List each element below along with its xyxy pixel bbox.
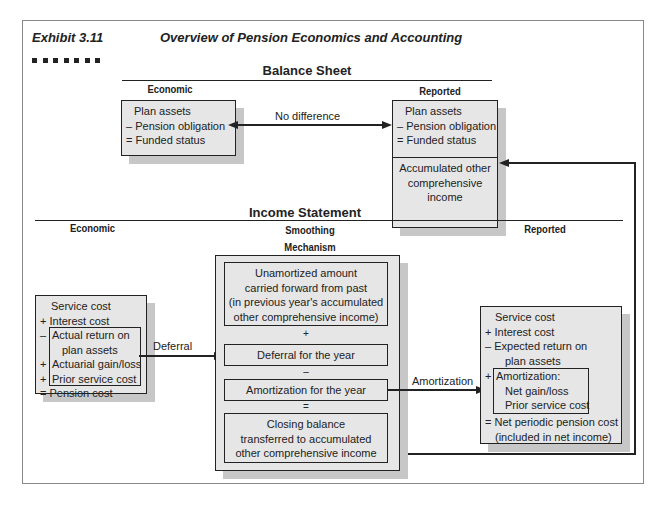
bs-rep-line: = Funded status: [397, 133, 493, 148]
econ-inner-line: plan assets: [52, 343, 140, 358]
bs-economic-label: Economic: [125, 83, 215, 95]
no-difference-label: No difference: [275, 110, 340, 122]
decorative-dots: [32, 49, 112, 55]
smoothing-line: Mechanism: [274, 239, 346, 256]
arrow-left-icon: [228, 121, 238, 129]
bs-econ-line: – Pension obligation: [126, 119, 231, 134]
is-reported-label: Reported: [509, 223, 581, 235]
closing-line: Closing balance: [225, 417, 387, 432]
arrow-left-icon: [499, 159, 509, 167]
econ-line: + Interest cost: [40, 314, 146, 329]
income-statement-rule: [35, 220, 623, 221]
econ-inner-signs: – + +: [40, 328, 48, 386]
income-statement-heading: Income Statement: [220, 205, 390, 220]
is-economic-label: Economic: [54, 222, 131, 234]
econ-inner-line: Prior service cost: [52, 372, 140, 387]
bs-economic-box: Plan assets – Pension obligation = Funde…: [121, 100, 236, 156]
amortization-arrow-line: [388, 389, 476, 391]
bs-reported-label: Reported: [395, 85, 485, 97]
no-difference-arrow-line: [236, 124, 383, 126]
closing-line: transferred to accumulated: [225, 432, 387, 447]
rep-line: Service cost: [485, 310, 621, 325]
rep-bottom-line: (included in net income): [485, 430, 618, 445]
rep-line: + Interest cost: [485, 325, 621, 340]
aoci-arrow-top: [508, 162, 635, 164]
smoothing-mechanism-label: Smoothing Mechanism: [274, 222, 346, 256]
is-economic-box: Service cost + Interest cost – + + Actua…: [35, 295, 147, 394]
aoci-arrow-bottom: [399, 453, 636, 455]
bs-rep-line: Plan assets: [397, 104, 493, 119]
sign: +: [485, 369, 491, 384]
rep-bottom-line: = Net periodic pension cost: [485, 415, 618, 430]
balance-sheet-heading: Balance Sheet: [122, 63, 492, 78]
is-reported-box: Service cost + Interest cost – Expected …: [480, 306, 622, 444]
minus-operator: –: [224, 366, 388, 377]
smoothing-line: Smoothing: [274, 222, 346, 239]
bs-econ-line: = Funded status: [126, 133, 231, 148]
pension-cost-line: = Pension cost: [40, 386, 112, 401]
sign: +: [40, 357, 48, 372]
rep-inner-line: Prior service cost: [496, 398, 588, 413]
net-periodic-section: = Net periodic pension cost (included in…: [485, 415, 618, 444]
econ-inner-line: Actual return on: [52, 328, 140, 343]
closing-line: other comprehensive income: [225, 446, 387, 461]
unamortized-line: carried forward from past: [225, 281, 387, 296]
aoci-section: Accumulated other comprehensive income: [393, 158, 497, 205]
plus-operator: +: [224, 328, 388, 339]
exhibit-title: Overview of Pension Economics and Accoun…: [160, 30, 462, 45]
aoci-line: comprehensive: [393, 176, 497, 191]
rep-inner-line: Amortization:: [496, 369, 588, 384]
econ-inner-box: Actual return on plan assets Actuarial g…: [49, 327, 141, 386]
amortization-year-box: Amortization for the year: [224, 379, 388, 401]
econ-line: Service cost: [40, 299, 146, 314]
bs-reported-box: Plan assets – Pension obligation = Funde…: [392, 100, 498, 228]
sign: –: [40, 328, 48, 343]
balance-sheet-rule: [122, 80, 492, 81]
aoci-line: income: [393, 190, 497, 205]
unamortized-line: other comprehensive income): [225, 310, 387, 325]
bs-econ-line: Plan assets: [126, 104, 231, 119]
unamortized-box: Unamortized amount carried forward from …: [224, 262, 388, 326]
sign: +: [40, 372, 48, 387]
exhibit-number: Exhibit 3.11: [32, 30, 103, 45]
aoci-arrow-vertical: [634, 162, 636, 454]
deferral-year-box: Deferral for the year: [224, 344, 388, 366]
arrow-right-icon: [382, 121, 392, 129]
unamortized-line: Unamortized amount: [225, 266, 387, 281]
rep-amortization-box: Amortization: Net gain/loss Prior servic…: [493, 368, 589, 414]
aoci-line: Accumulated other: [393, 161, 497, 176]
closing-balance-box: Closing balance transferred to accumulat…: [224, 413, 388, 463]
unamortized-line: (in previous year's accumulated: [225, 295, 387, 310]
rep-line: – Expected return on: [485, 339, 621, 354]
rep-line: plan assets: [485, 354, 621, 369]
rep-inner-line: Net gain/loss: [496, 384, 588, 399]
deferral-label: Deferral: [153, 340, 192, 352]
bs-rep-line: – Pension obligation: [397, 119, 493, 134]
amortization-label: Amortization: [412, 375, 473, 387]
equals-operator: =: [224, 401, 388, 412]
econ-inner-line: Actuarial gain/loss: [52, 357, 140, 372]
deferral-arrow-line: [139, 355, 218, 357]
